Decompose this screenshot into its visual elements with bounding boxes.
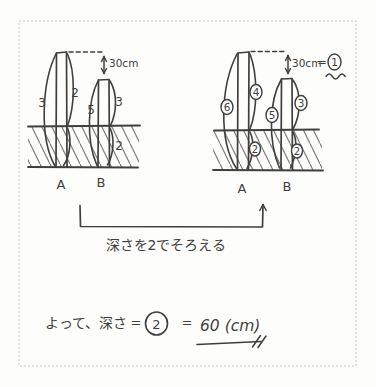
right-water-line bbox=[214, 130, 319, 131]
right-b-above-circled: 3 bbox=[295, 96, 307, 111]
conclusion-equals-2: = bbox=[182, 315, 193, 330]
right-equals-sign: = bbox=[317, 56, 326, 69]
left-a-above-label: 2 bbox=[71, 86, 79, 100]
right-pole-a-label: A bbox=[238, 181, 247, 196]
svg-text:4: 4 bbox=[253, 86, 260, 98]
svg-text:6: 6 bbox=[224, 101, 231, 113]
left-gap-label: 30cm bbox=[109, 57, 138, 69]
conclusion-lead: よって、深さ bbox=[45, 315, 127, 331]
left-a-total-label: 3 bbox=[38, 96, 46, 110]
right-b-below-circled: 2 bbox=[292, 144, 303, 158]
conclusion-equals-1: = bbox=[131, 315, 142, 330]
right-b-total-circled: 5 bbox=[266, 108, 278, 123]
answer-underline bbox=[197, 342, 261, 345]
svg-text:2: 2 bbox=[294, 146, 300, 157]
conclusion-line: よって、深さ = 2 = 60 (cm) bbox=[45, 312, 266, 348]
right-height-diff-arrow-icon bbox=[286, 56, 291, 74]
right-pole-b-label: B bbox=[283, 179, 292, 194]
svg-text:3: 3 bbox=[298, 97, 305, 109]
conclusion-answer: 60 (cm) bbox=[200, 317, 260, 335]
svg-text:2: 2 bbox=[252, 144, 258, 155]
left-pole-a-label: A bbox=[57, 177, 66, 192]
right-ground-bottom-line bbox=[213, 170, 323, 171]
right-diagram: 6 4 2 5 3 2 30cm = 1 A B bbox=[213, 52, 345, 197]
conclusion-circled-2: 2 bbox=[146, 312, 168, 335]
scale-bracket bbox=[80, 205, 266, 228]
left-height-diff-arrow-icon bbox=[102, 57, 107, 74]
right-a-below-circled: 2 bbox=[250, 142, 261, 156]
right-a-above-circled: 4 bbox=[250, 85, 262, 100]
left-diagram: 3 2 5 3 2 30cm A B bbox=[28, 52, 140, 192]
svg-text:1: 1 bbox=[331, 56, 338, 68]
right-unit-circled: 1 bbox=[328, 54, 341, 70]
right-a-total-circled: 6 bbox=[221, 100, 233, 115]
svg-text:2: 2 bbox=[152, 317, 160, 332]
wavy-underline-icon bbox=[326, 74, 345, 79]
left-pole-b-label: B bbox=[97, 175, 106, 190]
left-ground-bottom-line bbox=[28, 167, 138, 168]
left-b-below-label: 2 bbox=[115, 139, 123, 153]
diagram-canvas: 3 2 5 3 2 30cm A B bbox=[0, 0, 376, 387]
worksheet: 3 2 5 3 2 30cm A B bbox=[0, 0, 376, 387]
right-ground-hatch bbox=[213, 130, 322, 170]
left-b-above-label: 3 bbox=[115, 95, 123, 109]
left-b-total-label: 5 bbox=[87, 103, 95, 117]
bracket-note: 深さを2でそろえる bbox=[106, 237, 227, 253]
svg-text:5: 5 bbox=[269, 109, 276, 121]
